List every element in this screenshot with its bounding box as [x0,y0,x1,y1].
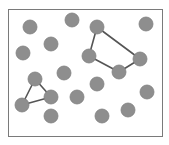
node-n7 [82,49,96,63]
node-n4 [139,17,153,31]
node-n2 [65,13,79,27]
node-n17 [121,103,135,117]
node-n18 [44,109,58,123]
node-n6 [16,46,30,60]
node-n16 [15,98,29,112]
node-n19 [95,109,109,123]
node-n3 [90,20,104,34]
node-n11 [28,72,42,86]
node-n10 [57,66,71,80]
node-diagram [0,0,169,145]
node-n14 [44,90,58,104]
node-n8 [133,52,147,66]
node-n13 [140,85,154,99]
node-n1 [23,20,37,34]
node-n5 [44,37,58,51]
node-layer [15,13,154,123]
node-n15 [70,90,84,104]
node-n9 [112,65,126,79]
node-n12 [90,77,104,91]
